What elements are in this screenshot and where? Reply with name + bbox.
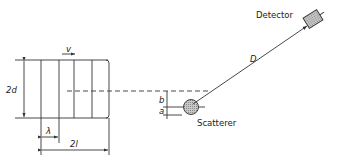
detector-icon [303,7,327,28]
height-label: 2d [6,85,17,95]
distance-label: D [250,54,257,64]
detector-label: Detector [256,10,294,20]
scatter-path-arrow-icon [193,26,307,104]
length-label: 2l [70,139,78,149]
offset-b-label: b [159,95,164,105]
scattering-diagram: v 2d λ 2l b a Scatterer D Detector [0,0,339,163]
wave-packet [15,60,109,118]
wavelength-label: λ [45,126,51,136]
height-dimension: 2d [6,61,24,117]
length-dimension: 2l [42,118,109,155]
velocity-label: v [66,44,72,54]
offset-a-label: a [159,106,164,116]
wavelength-dimension: λ [41,118,59,155]
wavefront-5 [106,60,109,118]
velocity-indicator: v [62,44,75,54]
scatterer-label: Scatterer [197,118,237,128]
